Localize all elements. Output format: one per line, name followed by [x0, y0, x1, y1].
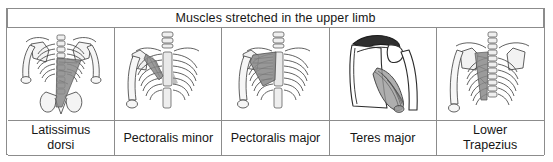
caption-line-1: Teres major	[330, 131, 436, 146]
caption-row: Latissimus dorsi Pectoralis minor Pector…	[8, 121, 544, 156]
lower-trapezius-illustration	[437, 28, 544, 120]
illustration-cell-teres-major	[329, 28, 436, 121]
caption-lower-trapezius: Lower Trapezius	[436, 121, 543, 156]
caption-line-1: Latissimus	[8, 123, 115, 138]
illustration-row	[8, 28, 544, 121]
muscles-table: Muscles stretched in the upper limb	[7, 9, 544, 156]
caption-line-1: Lower	[437, 123, 544, 138]
caption-teres-major: Teres major	[329, 121, 436, 156]
illustration-cell-lower-trapezius	[436, 28, 543, 121]
caption-pectoralis-major: Pectoralis major	[222, 121, 329, 156]
pectoralis-major-illustration	[222, 28, 328, 120]
caption-line-1: Pectoralis minor	[115, 131, 221, 146]
illustration-cell-pectoralis-minor	[115, 28, 222, 121]
figure-title: Muscles stretched in the upper limb	[8, 9, 544, 28]
caption-line-2: Trapezius	[437, 138, 544, 153]
illustration-cell-pectoralis-major	[222, 28, 329, 121]
caption-line-1: Pectoralis major	[222, 131, 328, 146]
muscles-figure: Muscles stretched in the upper limb	[6, 8, 545, 155]
latissimus-dorsi-illustration	[8, 28, 115, 120]
illustration-cell-latissimus-dorsi	[8, 28, 115, 121]
figure-title-row: Muscles stretched in the upper limb	[8, 9, 544, 28]
teres-major-illustration	[330, 28, 436, 120]
caption-pectoralis-minor: Pectoralis minor	[115, 121, 222, 156]
caption-latissimus-dorsi: Latissimus dorsi	[8, 121, 115, 156]
pectoralis-minor-illustration	[115, 28, 221, 120]
caption-line-2: dorsi	[8, 138, 115, 153]
